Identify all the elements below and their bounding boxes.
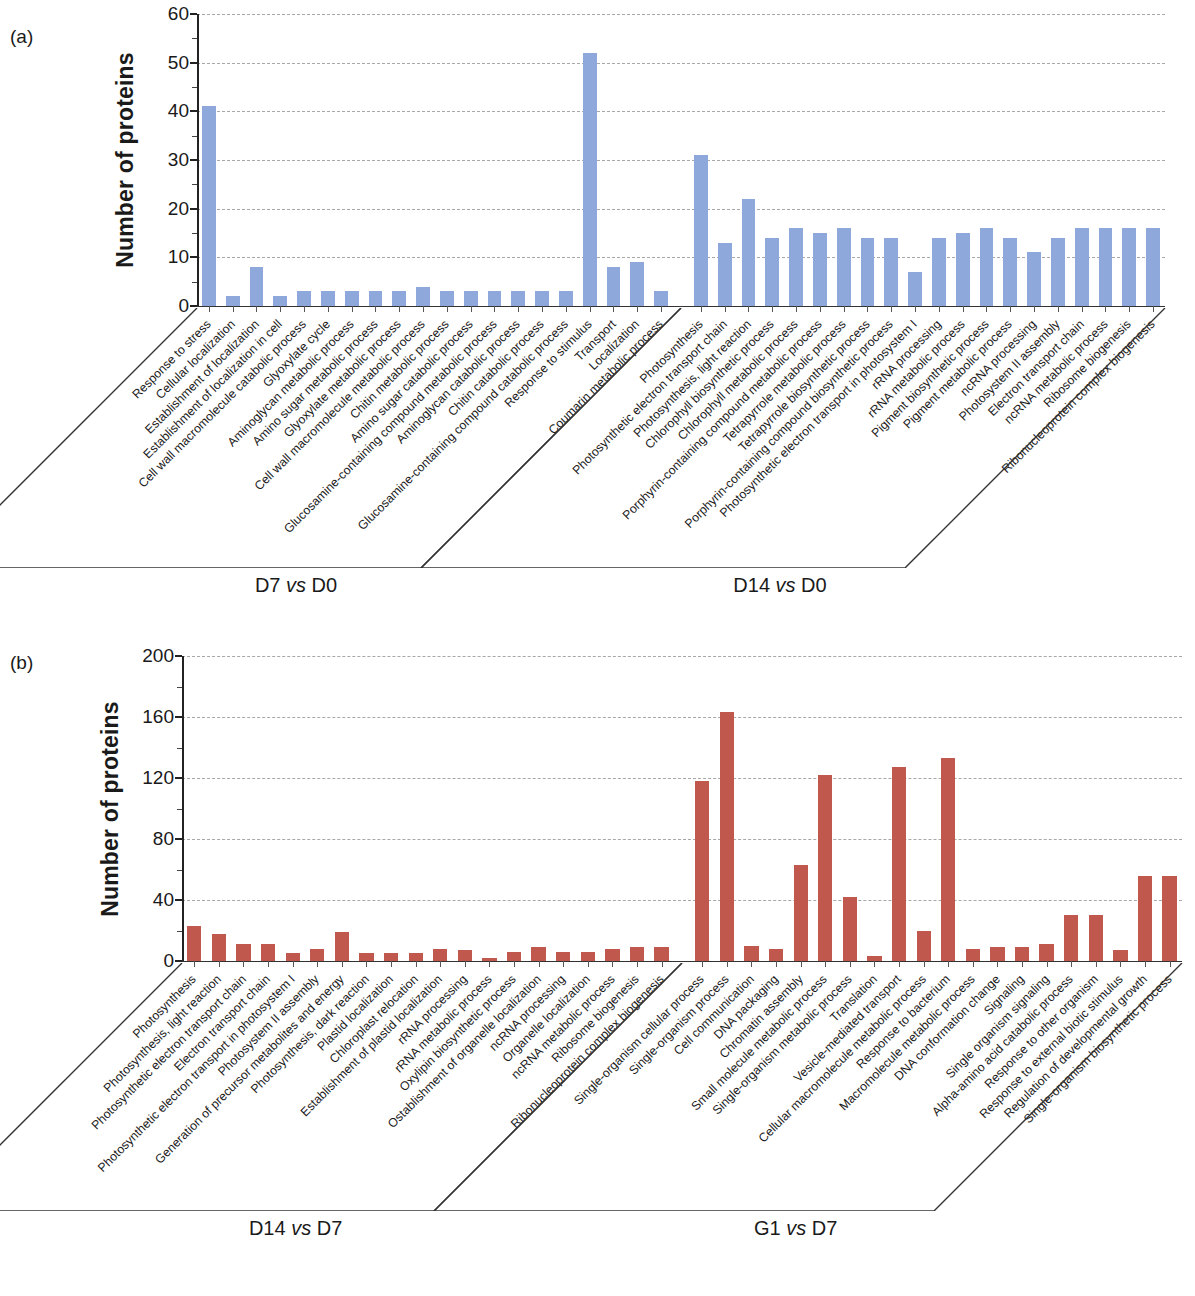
bar[interactable]: [187, 926, 201, 961]
bar[interactable]: [416, 287, 430, 306]
bar[interactable]: [581, 952, 595, 961]
bar[interactable]: [695, 781, 709, 961]
y-tick-mark: [175, 716, 182, 718]
bar[interactable]: [908, 272, 922, 306]
bar[interactable]: [273, 296, 287, 306]
bar[interactable]: [694, 155, 708, 306]
bar[interactable]: [990, 947, 1004, 961]
bar[interactable]: [1089, 915, 1103, 961]
bar[interactable]: [433, 949, 447, 961]
bar[interactable]: [297, 291, 311, 306]
x-tick-mark: [776, 961, 777, 967]
bar[interactable]: [212, 934, 226, 961]
bar-slot: [502, 656, 527, 961]
y-tick-mark: [175, 655, 182, 657]
bar[interactable]: [932, 238, 946, 306]
bar[interactable]: [261, 944, 275, 961]
bar[interactable]: [1162, 876, 1176, 961]
bar[interactable]: [884, 238, 898, 306]
bar[interactable]: [1015, 947, 1029, 961]
bar[interactable]: [980, 228, 994, 306]
bar[interactable]: [321, 291, 335, 306]
bar[interactable]: [458, 950, 472, 961]
bar[interactable]: [966, 949, 980, 961]
bar[interactable]: [1075, 228, 1089, 306]
bar[interactable]: [1027, 252, 1041, 306]
x-tick-mark: [489, 961, 490, 967]
bar[interactable]: [630, 262, 644, 306]
bar-slot: [506, 14, 530, 306]
bar[interactable]: [1099, 228, 1113, 306]
bar[interactable]: [286, 953, 300, 961]
bar[interactable]: [813, 233, 827, 306]
bar[interactable]: [607, 267, 621, 306]
bar[interactable]: [630, 947, 644, 961]
bar[interactable]: [720, 712, 734, 961]
bar[interactable]: [250, 267, 264, 306]
bar[interactable]: [744, 946, 758, 961]
bar[interactable]: [384, 953, 398, 961]
bar-slot: [903, 14, 927, 306]
bar[interactable]: [1113, 950, 1127, 961]
bar[interactable]: [531, 947, 545, 961]
bar[interactable]: [409, 953, 423, 961]
bar[interactable]: [1064, 915, 1078, 961]
group-title-vs: vs: [786, 1217, 806, 1239]
bar[interactable]: [202, 106, 216, 306]
x-tick-mark: [317, 961, 318, 967]
bar[interactable]: [605, 949, 619, 961]
bar[interactable]: [310, 949, 324, 961]
bar[interactable]: [742, 199, 756, 306]
bar-slot: [832, 14, 856, 306]
bar[interactable]: [535, 291, 549, 306]
y-tick-label: 0: [136, 950, 174, 972]
bar[interactable]: [1122, 228, 1136, 306]
bar[interactable]: [917, 931, 931, 962]
bar[interactable]: [765, 238, 779, 306]
x-tick-mark: [751, 961, 752, 967]
bar[interactable]: [941, 758, 955, 961]
bar[interactable]: [654, 947, 668, 961]
bar[interactable]: [1138, 876, 1152, 961]
bar[interactable]: [789, 228, 803, 306]
bar[interactable]: [488, 291, 502, 306]
bar[interactable]: [236, 944, 250, 961]
bar[interactable]: [654, 291, 668, 306]
bar[interactable]: [335, 932, 349, 961]
bar-slot: [998, 14, 1022, 306]
bar-slot: [1070, 14, 1094, 306]
bar[interactable]: [440, 291, 454, 306]
bar[interactable]: [369, 291, 383, 306]
bar[interactable]: [843, 897, 857, 961]
bar[interactable]: [1146, 228, 1160, 306]
bar-slot: [1046, 14, 1070, 306]
bar[interactable]: [956, 233, 970, 306]
bar[interactable]: [464, 291, 478, 306]
bar[interactable]: [359, 953, 373, 961]
x-tick-mark: [850, 961, 851, 967]
bar-slot: [316, 14, 340, 306]
bar[interactable]: [392, 291, 406, 306]
bar[interactable]: [794, 865, 808, 961]
bar[interactable]: [511, 291, 525, 306]
bar[interactable]: [559, 291, 573, 306]
bar[interactable]: [818, 775, 832, 961]
bar[interactable]: [556, 952, 570, 961]
bar[interactable]: [892, 767, 906, 961]
panel-b: (b) Number of proteins04080120160200Phot…: [0, 636, 1195, 1296]
bar[interactable]: [1051, 238, 1065, 306]
bar[interactable]: [1003, 238, 1017, 306]
y-tick-label: 160: [136, 706, 174, 728]
bar[interactable]: [861, 238, 875, 306]
bar-slot: [975, 14, 999, 306]
bar[interactable]: [345, 291, 359, 306]
bar[interactable]: [769, 949, 783, 961]
bar[interactable]: [583, 53, 597, 306]
bar[interactable]: [1039, 944, 1053, 961]
x-tick-mark: [566, 306, 567, 312]
bar[interactable]: [718, 243, 732, 306]
x-tick-mark: [352, 306, 353, 312]
bar[interactable]: [837, 228, 851, 306]
bar[interactable]: [507, 952, 521, 961]
bar[interactable]: [226, 296, 240, 306]
